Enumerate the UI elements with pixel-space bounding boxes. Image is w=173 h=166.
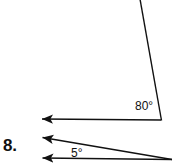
acute-angle-figure (43, 138, 173, 160)
worksheet-figure-panel: 80° 5° 8. (0, 0, 173, 166)
problem-number-label: 8. (3, 137, 17, 154)
lower-ray-left (43, 158, 173, 160)
angle-label-5-degrees: 5° (71, 147, 82, 159)
geometry-figure-canvas (0, 0, 173, 166)
horizontal-ray-left (42, 119, 161, 120)
upper-ray-left (43, 138, 173, 160)
angle-label-80-degrees: 80° (135, 100, 153, 112)
